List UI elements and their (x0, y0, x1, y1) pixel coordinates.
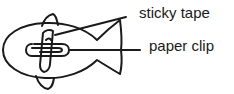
label-sticky-tape: sticky tape (139, 5, 210, 20)
top-fin (42, 14, 58, 26)
paper-clip (26, 44, 69, 56)
sticky-tape (40, 30, 53, 72)
label-paper-clip: paper clip (149, 38, 214, 53)
leader-line-sticky-tape (55, 17, 126, 35)
